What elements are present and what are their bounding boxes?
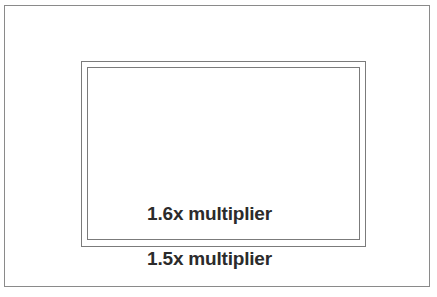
diagram-canvas: 1.6x multiplier 1.5x multiplier (0, 0, 437, 297)
label-1-6x-multiplier: 1.6x multiplier (0, 204, 437, 223)
label-1-5x-multiplier: 1.5x multiplier (0, 249, 437, 268)
frame-outer-full-frame (4, 5, 430, 287)
